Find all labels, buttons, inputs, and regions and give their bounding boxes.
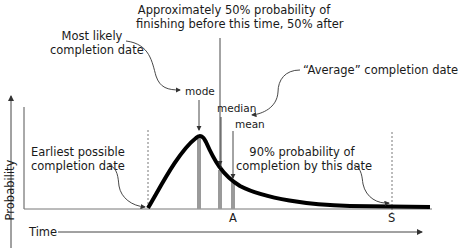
mean-callout-arrow xyxy=(252,70,300,115)
earliest-note: Earliest possible completion date xyxy=(31,145,125,173)
mean-label: mean xyxy=(235,117,265,131)
y-axis-label: Probability xyxy=(3,160,17,221)
mode-bar xyxy=(197,136,201,209)
tick-s: S xyxy=(388,211,395,225)
median-label: median xyxy=(217,101,256,115)
mode-note-line2: completion date xyxy=(50,43,134,57)
x-axis-label: Time xyxy=(29,225,57,239)
mode-note-line1: Most likely xyxy=(50,29,134,43)
median-note-line1: Approximately 50% probability of xyxy=(136,3,332,17)
mean-note: “Average” completion date xyxy=(303,63,458,77)
median-bar xyxy=(218,170,222,209)
mode-note: Most likely completion date xyxy=(50,29,134,57)
mode-label: mode xyxy=(185,84,215,98)
median-note: Approximately 50% probability of finishi… xyxy=(136,3,332,31)
ninety-note: 90% probability of completion by this da… xyxy=(236,145,368,173)
median-note-line2: finishing before this time, 50% after xyxy=(136,17,332,31)
earliest-note-line2: completion date xyxy=(31,159,125,173)
earliest-note-line1: Earliest possible xyxy=(31,145,125,159)
mean-bar xyxy=(231,182,235,209)
ninety-note-line2: completion by this date xyxy=(236,159,368,173)
ninety-note-line1: 90% probability of xyxy=(236,145,368,159)
tick-a: A xyxy=(229,211,237,225)
